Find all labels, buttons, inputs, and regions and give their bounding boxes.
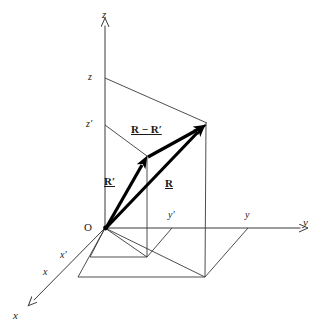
tick-label-y: y (245, 210, 249, 220)
tick-label-z-prime: z′ (86, 119, 92, 129)
y-axis-label: y (303, 217, 308, 228)
vector-diagram-figure: z y x O z z′ y y′ x x′ R′ R R − R′ (0, 0, 326, 331)
diagram-canvas (0, 0, 326, 331)
x-axis-label: x (13, 310, 18, 321)
inner-box-x-prime-tick-to-origin-line (90, 228, 105, 257)
r-tip-vertical-drop-line (205, 123, 206, 277)
vector-label-r-minus-r-prime: R − R′ (131, 124, 162, 135)
vector-arrows (106, 130, 198, 228)
origin-dot (103, 226, 108, 231)
x-axis-line (34, 228, 105, 300)
vector-label-r-prime: R′ (104, 176, 115, 187)
inner-box-y-prime-tick-to-base-line (147, 228, 172, 257)
vector-label-r: R (165, 178, 173, 189)
tick-label-y-prime: y′ (168, 210, 175, 220)
origin-label: O (84, 222, 92, 233)
outer-box-y-tick-to-base-line (205, 228, 248, 277)
tick-label-x-prime: x′ (60, 250, 67, 260)
vector-r-arrow (106, 132, 198, 228)
z-tick-to-r-tip-line (105, 78, 207, 123)
tick-label-z: z (88, 72, 92, 82)
origin-to-inner-base-diagonal-line (105, 228, 147, 257)
origin-to-outer-base-diagonal-line (105, 228, 205, 277)
tick-label-x: x (43, 267, 47, 277)
z-axis-label: z (102, 9, 106, 20)
